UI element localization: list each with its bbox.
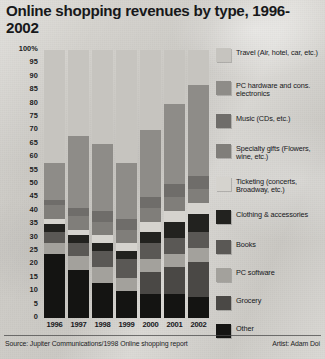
bar-segment	[140, 232, 161, 243]
bar-1998	[92, 50, 113, 318]
bar-segment	[188, 262, 209, 297]
legend-swatch	[216, 296, 231, 310]
bar-segment	[140, 272, 161, 293]
legend-item: Travel (Air, hotel, car, etc.)	[216, 48, 318, 62]
legend-item: PC software	[216, 268, 275, 282]
bar-segment	[68, 243, 89, 256]
y-axis-tick: 15	[0, 272, 38, 281]
y-axis-tick: 10	[0, 285, 38, 294]
bar-segment	[164, 238, 185, 254]
bar-segment	[44, 200, 65, 205]
legend-swatch	[216, 144, 231, 158]
legend-item: Music (CDs, etc.)	[216, 114, 290, 128]
bar-segment	[164, 267, 185, 294]
bar-segment	[116, 219, 137, 230]
legend-label: Specialty gifts (Flowers, wine, etc.)	[236, 144, 324, 162]
bar-segment	[164, 50, 185, 104]
bar-segment	[68, 256, 89, 269]
legend-item: PC hardware and cons. electronics	[216, 81, 324, 99]
legend-item: Ticketing (concerts, Broadway, etc.)	[216, 177, 324, 195]
legend-swatch	[216, 114, 231, 128]
y-axis-tick: 55	[0, 165, 38, 174]
x-axis-labels: 1996199719981999200020012002	[44, 320, 216, 332]
bar-2001	[164, 50, 185, 318]
legend-label: Travel (Air, hotel, car, etc.)	[236, 48, 318, 57]
bar-segment	[188, 232, 209, 248]
bar-segment	[140, 243, 161, 259]
bar-segment	[188, 85, 209, 176]
artist-credit: Artist: Adam Doi	[272, 340, 320, 347]
bar-segment	[188, 176, 209, 189]
legend-label: Music (CDs, etc.)	[236, 114, 290, 123]
legend-swatch	[216, 48, 231, 62]
bar-segment	[68, 136, 89, 208]
bar-segment	[92, 235, 113, 243]
chart-plot-area	[44, 50, 212, 318]
bar-segment	[92, 267, 113, 283]
bar-segment	[44, 163, 65, 201]
bar-segment	[164, 254, 185, 267]
bar-segment	[188, 50, 209, 85]
legend-label: Books	[236, 240, 256, 249]
bar-segment	[68, 216, 89, 229]
bar-segment	[140, 259, 161, 272]
bar-segment	[44, 232, 65, 243]
legend-label: PC hardware and cons. electronics	[236, 81, 324, 99]
y-axis-tick: 50	[0, 178, 38, 187]
y-axis-tick: 45	[0, 191, 38, 200]
bar-segment	[188, 248, 209, 261]
bar-segment	[188, 214, 209, 233]
bar-segment	[116, 50, 137, 163]
x-axis-tick: 1996	[44, 320, 65, 329]
bar-1996	[44, 50, 65, 318]
bar-segment	[116, 251, 137, 259]
bar-segment	[92, 222, 113, 235]
legend-label: Other	[236, 324, 254, 333]
legend-label: PC software	[236, 268, 275, 277]
bar-segment	[164, 222, 185, 238]
bar-segment	[188, 189, 209, 202]
legend-swatch	[216, 210, 231, 224]
y-axis-tick: 0	[0, 312, 38, 321]
bar-segment	[92, 283, 113, 318]
bar-segment	[164, 197, 185, 210]
bar-segment	[92, 144, 113, 211]
y-axis-tick: 85	[0, 84, 38, 93]
bar-segment	[44, 205, 65, 218]
y-axis-tick: 90	[0, 71, 38, 80]
bar-segment	[92, 50, 113, 144]
y-axis-tick: 35	[0, 218, 38, 227]
bar-segment	[68, 235, 89, 243]
legend-label: Ticketing (concerts, Broadway, etc.)	[236, 177, 324, 195]
bar-segment	[188, 297, 209, 318]
y-axis-tick: 65	[0, 138, 38, 147]
legend-item: Books	[216, 240, 256, 254]
x-axis-tick: 2001	[164, 320, 185, 329]
bar-segment	[188, 203, 209, 214]
y-axis-tick: 70	[0, 124, 38, 133]
bar-segment	[116, 278, 137, 291]
bar-segment	[140, 130, 161, 197]
legend-swatch	[216, 177, 231, 191]
bar-2002	[188, 50, 209, 318]
bar-segment	[44, 219, 65, 224]
legend-label: Clothing & accessories	[236, 210, 308, 219]
bar-segment	[92, 243, 113, 251]
y-axis-tick: 95	[0, 57, 38, 66]
bar-segment	[92, 251, 113, 267]
bar-segment	[164, 211, 185, 222]
bar-segment	[68, 230, 89, 235]
legend-swatch	[216, 268, 231, 282]
legend-item: Specialty gifts (Flowers, wine, etc.)	[216, 144, 324, 162]
bar-1997	[68, 50, 89, 318]
legend-swatch	[216, 81, 231, 95]
bar-segment	[92, 211, 113, 222]
y-axis-tick: 100%	[0, 44, 38, 53]
bar-segment	[140, 50, 161, 130]
legend-swatch	[216, 240, 231, 254]
bar-segment	[68, 50, 89, 136]
y-axis-tick: 5	[0, 299, 38, 308]
bar-segment	[116, 163, 137, 219]
bar-segment	[140, 294, 161, 318]
x-axis-tick: 1997	[68, 320, 89, 329]
